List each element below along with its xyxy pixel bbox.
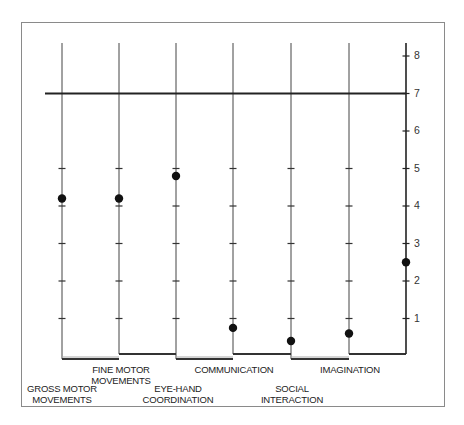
label-fine-motor: FINE MOTOR MOVEMENTS <box>91 365 150 386</box>
label-social-interaction: SOCIAL INTERACTION <box>261 384 323 405</box>
y-tick-label: 1 <box>414 312 420 324</box>
category-ticks <box>59 169 353 319</box>
label-line: INTERACTION <box>261 395 323 406</box>
y-tick-label: 7 <box>414 87 420 99</box>
label-gross-motor: GROSS MOTOR MOVEMENTS <box>27 384 97 405</box>
label-line: COMMUNICATION <box>194 365 273 376</box>
category-lines <box>62 43 349 359</box>
data-point-dot <box>345 329 353 337</box>
y-tick-label: 8 <box>414 49 420 61</box>
data-point-dot <box>172 172 180 180</box>
label-line: MOVEMENTS <box>27 395 97 406</box>
y-tick-label: 6 <box>414 124 420 136</box>
label-communication: COMMUNICATION <box>194 365 273 376</box>
category-baselines <box>62 354 406 359</box>
y-tick-label: 3 <box>414 237 420 249</box>
label-imagination: IMAGINATION <box>320 365 380 376</box>
label-eye-hand: EYE-HAND COORDINATION <box>143 384 214 405</box>
label-line: EYE-HAND <box>143 384 214 395</box>
y-tick-label: 2 <box>414 274 420 286</box>
chart-canvas <box>0 0 464 425</box>
label-line: GROSS MOTOR <box>27 384 97 395</box>
data-point-dot <box>287 337 295 345</box>
y-tick-label: 4 <box>414 199 420 211</box>
y-tick-label: 5 <box>414 162 420 174</box>
data-points <box>58 172 410 345</box>
label-line: IMAGINATION <box>320 365 380 376</box>
label-line: COORDINATION <box>143 395 214 406</box>
data-point-dot <box>402 258 410 266</box>
label-line: FINE MOTOR <box>91 365 150 376</box>
y-axis <box>403 43 410 354</box>
data-point-dot <box>115 194 123 202</box>
data-point-dot <box>58 194 66 202</box>
data-point-dot <box>229 324 237 332</box>
label-line: SOCIAL <box>261 384 323 395</box>
